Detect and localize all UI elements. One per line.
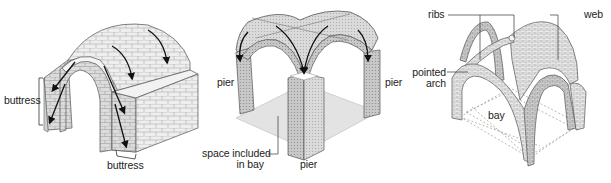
web-label: web <box>584 9 603 20</box>
space-label-line2: in bay <box>202 159 264 170</box>
ribs-label: ribs <box>428 9 445 20</box>
barrel-vault-illustration <box>0 0 200 183</box>
pier-bottom-label: pier <box>300 159 317 170</box>
barrel-vault-panel: buttress buttress <box>0 0 200 183</box>
buttress-left-label: buttress <box>4 95 41 106</box>
buttress-bottom-label: buttress <box>107 160 144 171</box>
pier-left-label: pier <box>217 77 234 88</box>
rib-vault-illustration <box>400 0 611 183</box>
groin-vault-panel: pier pier pier space included in bay <box>200 0 410 183</box>
pointed-arch-label-line2: arch <box>406 78 446 89</box>
rib-vault-panel: ribs web pointed arch bay <box>400 0 611 183</box>
bay-label: bay <box>488 110 505 121</box>
